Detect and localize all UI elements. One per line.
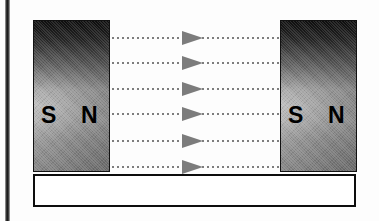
right-magnet-halftone-texture xyxy=(281,21,356,171)
field-line-arrow-icon xyxy=(182,56,203,70)
field-line xyxy=(112,166,282,168)
right-magnet: S N xyxy=(280,20,357,172)
magnetic-field-diagram: S N S N xyxy=(0,0,379,221)
field-line xyxy=(112,88,282,90)
field-line-arrow-icon xyxy=(182,134,203,148)
right-magnet-north-pole-label: N xyxy=(328,104,345,127)
field-line-arrow-icon xyxy=(182,160,203,174)
base-plate xyxy=(33,174,356,207)
field-line xyxy=(112,113,282,115)
field-line-arrow-icon xyxy=(182,82,203,96)
field-line xyxy=(112,140,282,142)
field-line xyxy=(112,37,282,39)
left-magnet-south-pole-label: S xyxy=(41,104,56,127)
field-line-arrow-icon xyxy=(182,107,203,121)
field-line xyxy=(112,62,282,64)
field-line-arrow-icon xyxy=(182,31,203,45)
right-magnet-south-pole-label: S xyxy=(288,104,303,127)
left-magnet-halftone-texture xyxy=(34,21,109,171)
left-magnet: S N xyxy=(33,20,110,172)
page-spine-shadow xyxy=(5,0,10,221)
left-magnet-north-pole-label: N xyxy=(81,104,98,127)
